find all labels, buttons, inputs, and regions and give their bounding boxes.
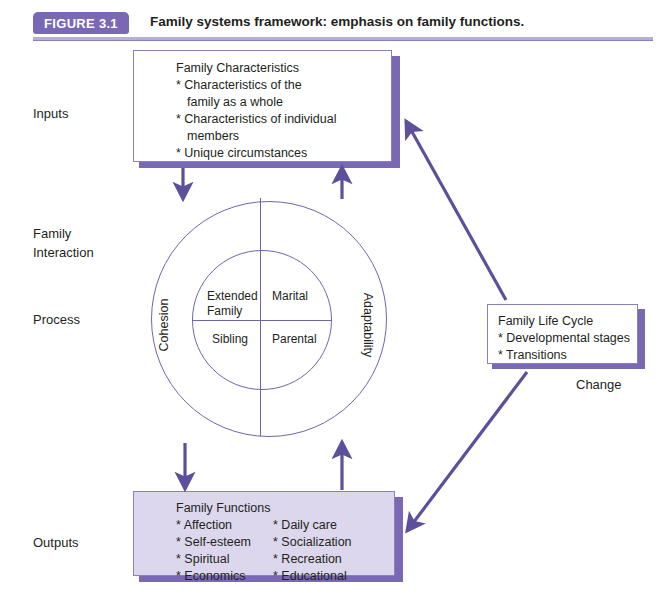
circle-horizontal-divider (192, 320, 332, 321)
outputs-box: Family Functions * Affection * Self-este… (133, 491, 395, 576)
arrow-life-cycle-to-outputs (407, 372, 527, 531)
ring-label-adaptability: Adaptability (361, 293, 375, 358)
life-cycle-heading: Family Life Cycle (498, 313, 630, 330)
figure-number-label: FIGURE 3.1 (44, 16, 118, 31)
circle-vertical-divider (260, 198, 261, 436)
stage-label-change: Change (576, 375, 622, 394)
quadrant-label-sibling: Sibling (212, 332, 248, 347)
life-cycle-bullet-1: * Developmental stages (498, 330, 630, 347)
figure-header-rule-accent (33, 40, 653, 41)
quadrant-label-marital: Marital (272, 289, 308, 304)
ring-label-cohesion: Cohesion (157, 299, 171, 352)
inputs-bullet-2: * Characteristics of individual (176, 111, 337, 128)
stage-label-outputs: Outputs (33, 533, 79, 552)
figure-title: Family systems framework: emphasis on fa… (150, 14, 524, 29)
inputs-box-shadow-right (392, 56, 400, 168)
quadrant-label-extended-family: Extended Family (207, 289, 258, 319)
outputs-left-bullet-3: * Spiritual (176, 551, 251, 568)
outputs-right-bullet-3: * Recreation (273, 551, 354, 568)
outputs-left-bullet-4: * Economics (176, 568, 251, 585)
outputs-left-bullet-2: * Self-esteem (176, 534, 251, 551)
inputs-box-content: Family Characteristics * Characteristics… (176, 60, 337, 162)
quadrant-label-parental: Parental (272, 332, 317, 347)
inputs-bullet-1: * Characteristics of the (176, 77, 337, 94)
outputs-right-bullet-1: * Daily care (273, 517, 354, 534)
outputs-right-bullet-2: * Socialization (273, 534, 354, 551)
stage-label-family-interaction: Family Interaction (33, 224, 94, 262)
life-cycle-box-shadow-bottom (492, 364, 645, 369)
inputs-box: Family Characteristics * Characteristics… (133, 50, 392, 162)
inputs-bullet-1-cont: family as a whole (176, 94, 337, 111)
life-cycle-box-shadow-right (638, 309, 645, 369)
inputs-box-shadow-bottom (139, 162, 400, 168)
outputs-column-left: * Affection * Self-esteem * Spiritual * … (176, 517, 251, 585)
outputs-box-heading: Family Functions (176, 500, 354, 517)
outputs-bullet-columns: * Affection * Self-esteem * Spiritual * … (176, 517, 354, 585)
inputs-bullet-3: * Unique circumstances (176, 145, 337, 162)
inputs-bullet-2-cont: members (176, 128, 337, 145)
outputs-left-bullet-1: * Affection (176, 517, 251, 534)
outputs-right-bullet-4: * Educational (273, 568, 354, 585)
life-cycle-bullet-2: * Transitions (498, 347, 630, 364)
arrow-life-cycle-to-inputs (406, 121, 506, 300)
figure-number-badge: FIGURE 3.1 (33, 12, 129, 34)
stage-label-inputs: Inputs (33, 104, 68, 123)
life-cycle-box: Family Life Cycle * Developmental stages… (487, 304, 638, 364)
stage-label-process: Process (33, 310, 80, 329)
outputs-column-right: * Daily care * Socialization * Recreatio… (273, 517, 354, 585)
family-interaction-circle-diagram: Extended Family Marital Sibling Parental… (150, 200, 392, 440)
outputs-box-shadow-right (395, 497, 403, 582)
outputs-box-content: Family Functions * Affection * Self-este… (176, 500, 354, 585)
figure-header: FIGURE 3.1 Family systems framework: emp… (0, 0, 671, 44)
inputs-box-heading: Family Characteristics (176, 60, 337, 77)
life-cycle-box-content: Family Life Cycle * Developmental stages… (498, 313, 630, 364)
